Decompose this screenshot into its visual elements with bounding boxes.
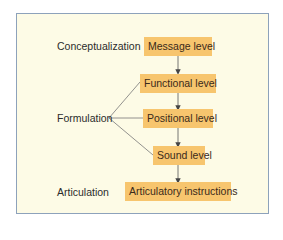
formulation-line-functional	[109, 82, 140, 118]
stage-label-articulation: Articulation	[57, 186, 109, 198]
box-message-level: Message level	[144, 37, 212, 56]
stage-label-conceptualization: Conceptualization	[57, 40, 140, 52]
box-articulatory-instructions: Articulatory instructions	[125, 182, 231, 201]
box-positional-level: Positional level	[143, 109, 213, 128]
box-functional-level: Functional level	[140, 74, 216, 93]
box-sound-level: Sound level	[153, 146, 205, 165]
stage-label-formulation: Formulation	[57, 112, 112, 124]
